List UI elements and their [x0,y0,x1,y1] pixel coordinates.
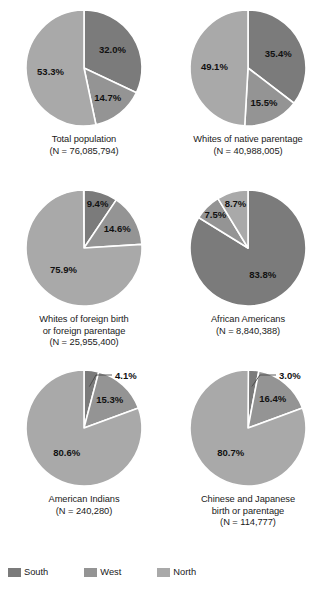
pie-svg-whites-native-parentage: 35.4%15.5%49.1% [166,4,329,132]
slice-label-west: 14.7% [94,92,121,103]
slice-label-south: 4.1% [115,370,137,381]
caption-n-label: (N = 25,955,400) [2,337,166,349]
caption-line: or foreign parentage [2,326,166,338]
slice-label-south: 32.0% [99,44,126,55]
legend-swatch-icon [84,568,97,577]
pie-chart-grid: 32.0%14.7%53.3%Total population(N = 76,0… [0,0,329,556]
caption-n-label: (N = 240,280) [2,506,166,518]
pie-svg-american-indians: 4.1%15.3%80.6% [2,364,166,492]
legend-item-north: North [157,567,196,577]
slice-label-west: 15.3% [96,394,123,405]
legend-item-west: West [84,567,121,577]
caption-line: Chinese and Japanese [166,494,329,506]
slice-label-west: 16.4% [259,393,286,404]
caption-line: birth or parentage [166,506,329,518]
slice-label-south: 9.4% [87,198,109,209]
slice-label-south: 83.8% [249,269,276,280]
slice-label-north: 53.3% [37,66,64,77]
caption-line: Whites of foreign birth [2,314,166,326]
pie-svg-african-americans: 83.8%7.5%8.7% [166,184,329,312]
pie-panel-chinese-japanese: 3.0%16.4%80.7%Chinese and Japanesebirth … [166,364,329,529]
caption-n-label: (N = 76,085,794) [2,146,166,158]
pie-panel-whites-native-parentage: 35.4%15.5%49.1%Whites of native parentag… [166,4,329,157]
pie-svg-whites-foreign-birth: 9.4%14.6%75.9% [2,184,166,312]
pie-panel-african-americans: 83.8%7.5%8.7%African Americans(N = 8,840… [166,184,329,337]
pie-caption-total-population: Total population(N = 76,085,794) [2,134,166,157]
pie-caption-whites-native-parentage: Whites of native parentage(N = 40,988,00… [166,134,329,157]
slice-label-west: 14.6% [104,223,131,234]
slice-label-north: 49.1% [201,61,228,72]
slice-label-west: 15.5% [251,97,278,108]
slice-label-north: 80.6% [53,447,80,458]
caption-n-label: (N = 114,777) [166,517,329,529]
slice-label-north: 80.7% [217,447,244,458]
pie-chart-whites-foreign-birth: 9.4%14.6%75.9% [2,184,166,312]
slice-label-south: 35.4% [265,48,292,59]
legend-label: South [24,567,48,577]
pie-svg-chinese-japanese: 3.0%16.4%80.7% [166,364,329,492]
pie-chart-whites-native-parentage: 35.4%15.5%49.1% [166,4,329,132]
pie-chart-african-americans: 83.8%7.5%8.7% [166,184,329,312]
caption-line: Total population [2,134,166,146]
pie-caption-american-indians: American Indians(N = 240,280) [2,494,166,517]
caption-n-label: (N = 40,988,005) [166,146,329,158]
caption-line: Whites of native parentage [166,134,329,146]
legend-label: West [100,567,121,577]
pie-caption-chinese-japanese: Chinese and Japanesebirth or parentage(N… [166,494,329,529]
legend-swatch-icon [157,568,170,577]
slice-label-north: 8.7% [225,198,247,209]
caption-line: African Americans [166,314,329,326]
pie-panel-whites-foreign-birth: 9.4%14.6%75.9%Whites of foreign birthor … [2,184,166,349]
pie-panel-american-indians: 4.1%15.3%80.6%American Indians(N = 240,2… [2,364,166,517]
pie-panel-total-population: 32.0%14.7%53.3%Total population(N = 76,0… [2,4,166,157]
pie-chart-total-population: 32.0%14.7%53.3% [2,4,166,132]
pie-chart-american-indians: 4.1%15.3%80.6% [2,364,166,492]
legend-swatch-icon [8,568,21,577]
legend-label: North [173,567,196,577]
slice-label-north: 75.9% [50,264,77,275]
pie-caption-whites-foreign-birth: Whites of foreign birthor foreign parent… [2,314,166,349]
pie-chart-chinese-japanese: 3.0%16.4%80.7% [166,364,329,492]
slice-label-south: 3.0% [279,370,301,381]
chart-legend: SouthWestNorth [8,563,321,581]
caption-n-label: (N = 8,840,388) [166,326,329,338]
caption-line: American Indians [2,494,166,506]
pie-svg-total-population: 32.0%14.7%53.3% [2,4,166,132]
slice-label-west: 7.5% [204,209,226,220]
pie-caption-african-americans: African Americans(N = 8,840,388) [166,314,329,337]
legend-item-south: South [8,567,48,577]
